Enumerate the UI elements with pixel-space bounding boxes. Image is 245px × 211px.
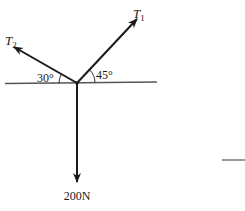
t1-label: T1 [133,6,145,23]
t2-label: T2 [5,33,17,50]
horizontal-reference-line [5,82,157,84]
junction-point [75,81,79,85]
angle-arc-30 [59,74,61,83]
angle-label-45: 45° [96,68,113,82]
weight-label: 200N [64,189,91,203]
force-diagram: T1 T2 45° 30° 200N [0,0,245,211]
angle-arc-45 [90,70,96,83]
angle-label-30: 30° [37,71,54,85]
